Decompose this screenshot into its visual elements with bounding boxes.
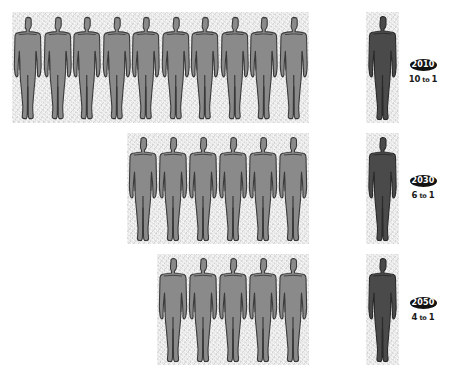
worker-figure-icon — [248, 136, 278, 244]
ratio-label: 4 to 1 — [412, 312, 435, 322]
worker-figure-icon — [131, 15, 161, 123]
workers-panel-2050 — [157, 254, 309, 365]
worker-figure-icon — [249, 15, 279, 123]
retiree-figure-icon — [367, 136, 398, 244]
worker-figure-icon — [279, 15, 309, 123]
worker-figure-icon — [218, 257, 248, 365]
label-2010: 2010 10 to 1 — [403, 59, 443, 84]
worker-figure-icon — [43, 15, 73, 123]
worker-figure-icon — [220, 15, 250, 123]
ratio-label: 10 to 1 — [409, 74, 438, 84]
worker-figure-icon — [190, 15, 220, 123]
workers-panel-2030 — [127, 133, 309, 244]
worker-figure-icon — [188, 136, 218, 244]
worker-figure-icon — [72, 15, 102, 123]
workers-panel-2010 — [12, 12, 309, 123]
retiree-panel-2010 — [366, 12, 399, 123]
worker-figure-icon — [102, 15, 132, 123]
retiree-panel-2050 — [366, 254, 399, 365]
worker-figure-icon — [13, 15, 43, 123]
worker-figure-icon — [128, 136, 158, 244]
year-badge: 2010 — [410, 59, 437, 71]
label-2050: 2050 4 to 1 — [403, 297, 443, 322]
retiree-figure-icon — [367, 15, 398, 123]
worker-figure-icon — [188, 257, 218, 365]
worker-figure-icon — [278, 257, 308, 365]
retiree-panel-2030 — [366, 133, 399, 244]
year-badge: 2030 — [410, 175, 437, 187]
worker-figure-icon — [161, 15, 191, 123]
worker-figure-icon — [278, 136, 308, 244]
worker-figure-icon — [158, 136, 188, 244]
retiree-figure-icon — [367, 257, 398, 365]
worker-figure-icon — [248, 257, 278, 365]
worker-figure-icon — [158, 257, 188, 365]
label-2030: 2030 6 to 1 — [403, 175, 443, 200]
year-badge: 2050 — [410, 297, 437, 309]
worker-figure-icon — [218, 136, 248, 244]
ratio-label: 6 to 1 — [412, 190, 435, 200]
